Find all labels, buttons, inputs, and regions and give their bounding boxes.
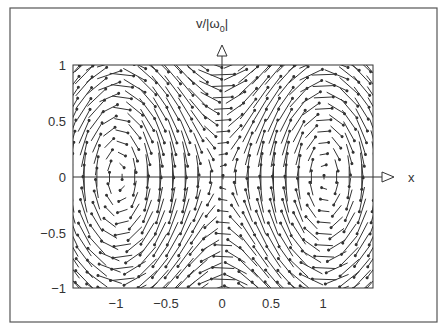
y-axis xyxy=(217,45,227,288)
y-tick-label: 0 xyxy=(59,170,66,185)
x-axis-label: x xyxy=(408,170,415,185)
x-tick-label: 0 xyxy=(218,296,225,311)
x-tick-labels: −1 −0.5 0 0.5 1 xyxy=(109,296,327,311)
y-tick-labels: 1 0.5 0 −0.5 −1 xyxy=(40,58,66,296)
x-axis-arrow-icon xyxy=(382,172,394,182)
y-tick-label: −0.5 xyxy=(40,226,66,241)
x-tick-label: −1 xyxy=(109,296,124,311)
y-tick-label: 0.5 xyxy=(48,114,66,129)
y-axis-arrow-icon xyxy=(217,45,227,56)
x-axis xyxy=(73,172,394,182)
y-axis-label: v/|ω0| xyxy=(196,16,228,34)
x-tick-label: 1 xyxy=(319,296,326,311)
x-tick-label: 0.5 xyxy=(262,296,280,311)
x-tick-label: −0.5 xyxy=(153,296,179,311)
y-tick-label: −1 xyxy=(51,281,66,296)
y-tick-label: 1 xyxy=(59,58,66,73)
phase-portrait-figure: v/|ω0| x 1 0.5 0 −0.5 −1 −1 −0.5 0 0.5 1 xyxy=(0,0,443,332)
